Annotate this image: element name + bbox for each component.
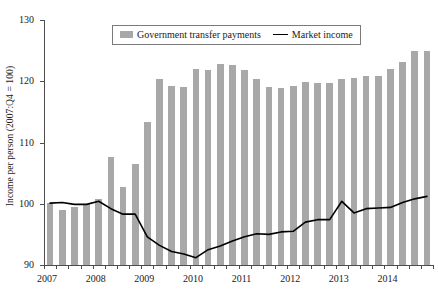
y-tick-label: 110 xyxy=(19,136,34,149)
x-tick-label: 2012 xyxy=(280,272,300,285)
x-tick xyxy=(105,265,106,269)
x-tick-label: 2011 xyxy=(232,272,252,285)
y-axis-title-text: Income per person (2007:Q4 = 100) xyxy=(5,66,15,206)
x-tick xyxy=(324,265,325,269)
x-tick xyxy=(348,265,349,269)
legend-entry-government-transfer-payments: Government transfer payments xyxy=(120,28,261,41)
plot-area: 90100110120130 2007200820092010201120122… xyxy=(44,20,433,265)
legend-label-government-transfer-payments: Government transfer payments xyxy=(137,28,261,41)
y-axis-title: Income per person (2007:Q4 = 100) xyxy=(0,0,20,272)
x-tick xyxy=(263,265,264,269)
x-tick xyxy=(178,265,179,269)
x-tick xyxy=(202,265,203,269)
chart-legend: Government transfer payments Market inco… xyxy=(112,25,361,45)
y-tick-label: 90 xyxy=(24,258,34,271)
x-tick xyxy=(421,265,422,269)
x-tick xyxy=(117,265,118,269)
x-tick xyxy=(251,265,252,269)
x-tick xyxy=(299,265,300,269)
bar-swatch-icon xyxy=(120,31,133,38)
x-tick-label: 2013 xyxy=(329,272,349,285)
x-tick xyxy=(214,265,215,269)
x-tick xyxy=(372,265,373,269)
x-tick xyxy=(141,265,142,269)
x-tick xyxy=(153,265,154,269)
x-tick xyxy=(311,265,312,269)
x-tick xyxy=(93,265,94,269)
x-tick xyxy=(44,265,45,269)
line-series-market-income xyxy=(44,20,433,265)
chart-figure: Income per person (2007:Q4 = 100) 901001… xyxy=(0,0,438,296)
x-tick-label: 2010 xyxy=(183,272,203,285)
x-tick xyxy=(397,265,398,269)
x-tick xyxy=(190,265,191,269)
x-tick-label: 2009 xyxy=(134,272,154,285)
x-tick-label: 2008 xyxy=(86,272,106,285)
line-swatch-icon xyxy=(273,34,288,35)
x-tick xyxy=(226,265,227,269)
x-tick xyxy=(68,265,69,269)
x-tick xyxy=(384,265,385,269)
x-tick xyxy=(166,265,167,269)
x-tick-label: 2014 xyxy=(377,272,397,285)
x-tick xyxy=(287,265,288,269)
x-tick xyxy=(56,265,57,269)
x-tick xyxy=(129,265,130,269)
y-tick-label: 100 xyxy=(19,197,34,210)
x-tick-label: 2007 xyxy=(37,272,57,285)
y-tick-label: 130 xyxy=(19,13,34,26)
x-tick xyxy=(239,265,240,269)
legend-entry-market-income: Market income xyxy=(273,28,353,41)
legend-label-market-income: Market income xyxy=(292,28,353,41)
x-tick xyxy=(275,265,276,269)
x-tick xyxy=(433,265,434,269)
x-tick xyxy=(409,265,410,269)
x-tick xyxy=(360,265,361,269)
x-tick xyxy=(336,265,337,269)
market-income-polyline xyxy=(50,196,427,257)
y-tick-label: 120 xyxy=(19,74,34,87)
x-tick xyxy=(81,265,82,269)
